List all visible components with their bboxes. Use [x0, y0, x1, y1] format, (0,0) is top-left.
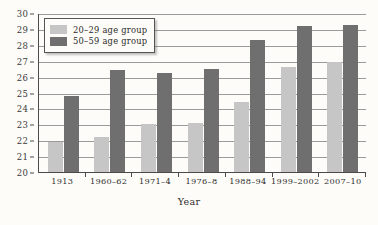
y-axis-tick	[30, 93, 34, 94]
bar-group	[226, 14, 273, 172]
y-axis-tick	[30, 125, 34, 126]
y-axis: 3029282726252423222120	[0, 14, 34, 173]
legend-label: 50–59 age group	[73, 36, 147, 46]
y-axis-tick-label: 28	[17, 41, 28, 51]
x-axis-tick-label: 1988–94	[225, 176, 271, 186]
x-axis-tick-label: 1971–4	[132, 176, 178, 186]
x-axis-title: Year	[0, 196, 378, 207]
y-axis-tick	[30, 77, 34, 78]
y-axis-tick-label: 26	[17, 73, 28, 83]
y-axis-tick-label: 29	[17, 25, 28, 35]
bar	[281, 67, 296, 172]
bar	[250, 40, 265, 172]
y-axis-tick	[30, 61, 34, 62]
legend-label: 20–29 age group	[73, 25, 147, 35]
bar-group	[180, 14, 227, 172]
y-axis-tick	[30, 29, 34, 30]
bar	[343, 25, 358, 172]
bar	[157, 73, 172, 172]
bar	[297, 26, 312, 172]
y-axis-tick-label: 21	[17, 152, 28, 162]
legend: 20–29 age group 50–59 age group	[44, 18, 155, 53]
y-axis-tick	[30, 45, 34, 46]
bar	[94, 137, 109, 172]
y-axis-tick	[30, 157, 34, 158]
legend-swatch-icon-dark	[50, 37, 67, 46]
bar-chart: 3029282726252423222120 19131960–621971–4…	[0, 0, 378, 225]
x-axis-labels: 19131960–621971–41976–81988–941999–20022…	[39, 176, 366, 186]
bar	[327, 62, 342, 172]
y-axis-tick-label: 30	[17, 9, 28, 19]
y-axis-tick-label: 20	[17, 168, 28, 178]
x-axis-tick-label: 1960–62	[85, 176, 131, 186]
legend-item-20-29: 20–29 age group	[50, 25, 147, 35]
legend-item-50-59: 50–59 age group	[50, 36, 147, 46]
legend-swatch-icon-light	[50, 25, 67, 34]
y-axis-tick-label: 27	[17, 57, 28, 67]
y-axis-tick-label: 22	[17, 136, 28, 146]
bar	[188, 123, 203, 172]
bar	[141, 124, 156, 172]
bar-group	[319, 14, 366, 172]
x-axis-tick-label: 1999–2002	[271, 176, 319, 186]
y-axis-tick-label: 23	[17, 120, 28, 130]
bar	[204, 69, 219, 172]
y-axis-tick	[30, 141, 34, 142]
x-axis-tick-label: 1976–8	[178, 176, 224, 186]
bar	[110, 70, 125, 172]
y-axis-tick-label: 25	[17, 89, 28, 99]
bar	[64, 96, 79, 172]
y-axis-tick	[30, 109, 34, 110]
bar	[234, 102, 249, 172]
y-axis-tick-label: 24	[17, 104, 28, 114]
bar	[48, 142, 63, 172]
x-axis-tick-label: 1913	[39, 176, 85, 186]
y-axis-tick	[30, 14, 34, 15]
y-axis-tick	[30, 173, 34, 174]
bar-group	[273, 14, 320, 172]
x-axis-tick-label: 2007–10	[320, 176, 366, 186]
